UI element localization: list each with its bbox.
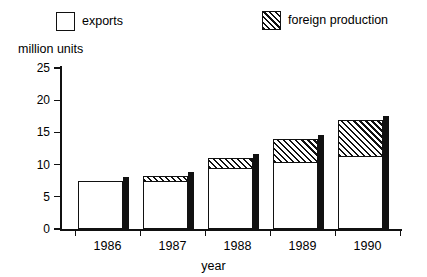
bar-segment-foreign-production-1987 — [143, 176, 188, 182]
bar-segment-exports-1990 — [338, 155, 383, 229]
y-tick-15 — [54, 132, 61, 133]
x-tick-label-1988: 1988 — [211, 240, 265, 253]
y-tick-20 — [54, 100, 61, 101]
bar-segment-foreign-production-1989 — [273, 139, 318, 163]
x-tick-b3 — [270, 229, 271, 236]
y-tick-label-25-wrap: 25 — [16, 62, 50, 74]
y-tick-label-15: 15 — [20, 126, 50, 138]
y-tick-label-0: 0 — [20, 223, 50, 235]
plot-area: 0 5 10 15 20 25 1986 1987 1988 — [0, 0, 427, 277]
y-tick-label-25: 25 — [20, 62, 50, 74]
y-tick-25 — [54, 67, 61, 68]
y-tick-label-10-wrap: 10 — [16, 159, 50, 171]
bar-shadow-1990 — [383, 116, 389, 230]
y-tick-0 — [54, 228, 61, 229]
x-axis-title: year — [0, 259, 427, 273]
x-axis-line — [60, 229, 402, 231]
bar-segment-exports-1986 — [78, 181, 123, 229]
x-tick-label-1989: 1989 — [276, 240, 330, 253]
chart-figure: exports foreign production million units… — [0, 0, 427, 277]
bar-segment-exports-1988 — [208, 168, 253, 229]
bar-segment-exports-1987 — [143, 181, 188, 229]
bar-shadow-1986 — [123, 177, 129, 229]
y-tick-5 — [54, 196, 61, 197]
y-tick-label-15-wrap: 15 — [16, 126, 50, 138]
y-tick-label-20-wrap: 20 — [16, 94, 50, 106]
bar-shadow-1989 — [318, 135, 324, 229]
y-tick-label-20: 20 — [20, 94, 50, 106]
x-tick-label-1987: 1987 — [146, 240, 200, 253]
x-tick-b0 — [75, 229, 76, 236]
y-tick-label-10: 10 — [20, 159, 50, 171]
bar-segment-foreign-production-1990 — [338, 120, 383, 157]
x-tick-b1 — [140, 229, 141, 236]
y-tick-label-5: 5 — [20, 191, 50, 203]
bar-segment-exports-1989 — [273, 161, 318, 229]
x-tick-label-1986: 1986 — [81, 240, 135, 253]
bar-shadow-1988 — [253, 154, 259, 229]
y-tick-label-0-wrap: 0 — [16, 223, 50, 235]
bar-shadow-1987 — [188, 172, 194, 229]
x-tick-label-1990: 1990 — [341, 240, 395, 253]
x-tick-b5 — [400, 229, 401, 236]
y-axis-line — [60, 66, 62, 231]
x-tick-b4 — [335, 229, 336, 236]
x-tick-b2 — [205, 229, 206, 236]
y-tick-label-5-wrap: 5 — [16, 191, 50, 203]
bar-segment-foreign-production-1988 — [208, 158, 253, 169]
y-tick-10 — [54, 164, 61, 165]
